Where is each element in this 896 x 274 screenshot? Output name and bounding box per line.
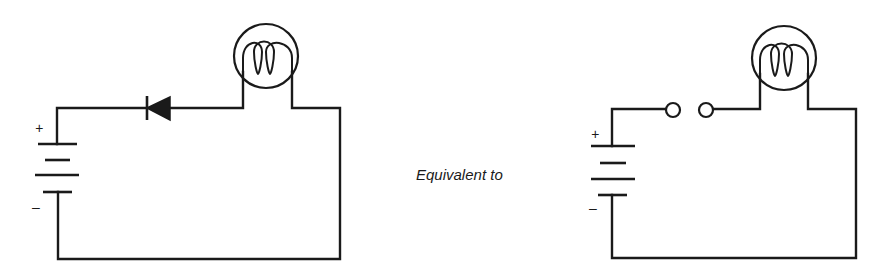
lamp-filament-icon xyxy=(243,42,292,75)
left-battery-icon xyxy=(35,144,79,192)
lamp-filament-icon xyxy=(760,44,808,77)
left-lamp-icon xyxy=(234,24,298,88)
right-circuit: + – xyxy=(588,26,856,258)
right-battery-minus-label: – xyxy=(588,200,597,216)
right-wire-lamp-to-right xyxy=(612,74,856,258)
open-switch-icon xyxy=(666,103,713,117)
left-wire-top-left xyxy=(57,108,147,144)
left-circuit: + – xyxy=(31,24,340,259)
left-battery-minus-label: – xyxy=(31,199,40,215)
circuit-diagram: + – + – xyxy=(0,0,896,274)
right-wire-switch-to-lamp xyxy=(713,74,760,109)
diode-icon xyxy=(147,96,170,120)
equivalence-caption: Equivalent to xyxy=(416,166,503,183)
left-wire-lamp-to-right xyxy=(58,72,340,259)
left-battery-plus-label: + xyxy=(35,120,43,136)
right-lamp-icon xyxy=(752,26,816,90)
right-wire-top-left xyxy=(612,109,666,146)
right-battery-icon xyxy=(591,146,635,195)
left-wire-diode-to-lamp xyxy=(170,72,243,108)
right-battery-plus-label: + xyxy=(591,126,599,142)
